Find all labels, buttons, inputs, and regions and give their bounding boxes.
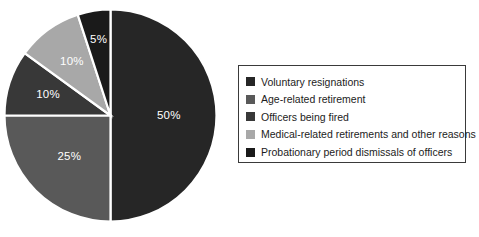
legend-item-label: Probationary period dismissals of office… [261,147,452,158]
legend-item-officers-being-fired[interactable]: Officers being fired [246,108,465,126]
pie-chart-figure: 50%25%10%10%5% [0,0,240,237]
legend-item-label: Medical-related retirements and other re… [261,129,476,140]
legend-item-age-related-retirement[interactable]: Age-related retirement [246,91,465,109]
legend-item-label: Officers being fired [261,112,349,123]
pie-slice-group [4,10,216,222]
legend-swatch-icon [246,130,255,139]
pie-slice-label-probationary-dismissals: 5% [90,33,107,45]
pie-slice-label-voluntary-resignations: 50% [157,109,181,121]
pie-slice-label-officers-being-fired: 10% [36,88,60,100]
legend-swatch-icon [246,77,255,86]
chart-legend: Voluntary resignationsAge-related retire… [238,65,466,163]
legend-swatch-icon [246,95,255,104]
pie-slice-label-medical-related-retirements: 10% [60,55,84,67]
pie-slice-label-age-related-retirement: 25% [57,150,81,162]
legend-item-voluntary-resignations[interactable]: Voluntary resignations [246,73,465,91]
legend-swatch-icon [246,112,255,121]
pie-chart-svg: 50%25%10%10%5% [0,0,240,237]
legend-item-medical-related-retirements[interactable]: Medical-related retirements and other re… [246,126,465,144]
pie-slice-age-related-retirement[interactable] [5,116,111,222]
legend-swatch-icon [246,148,255,157]
legend-item-label: Age-related retirement [261,94,365,105]
legend-item-label: Voluntary resignations [261,77,364,88]
legend-item-probationary-dismissals[interactable]: Probationary period dismissals of office… [246,143,465,161]
